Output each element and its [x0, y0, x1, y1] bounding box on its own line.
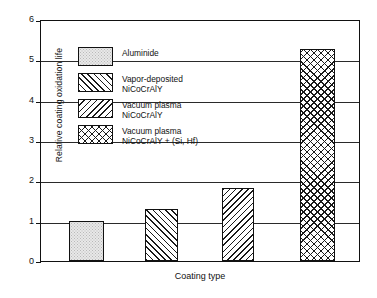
y-axis-title: Relative coating oxidation life	[54, 25, 64, 185]
legend-swatch-hatch-forward-icon	[78, 73, 113, 92]
legend-item-aluminide[interactable]: Aluminide	[78, 46, 253, 68]
legend-swatch-stipple-icon	[78, 47, 113, 66]
bar-vapor-deposited-nicocralY[interactable]	[145, 209, 178, 261]
y-tick-label-5: 5	[29, 55, 34, 64]
chart-legend: Aluminide Vapor-deposited NiCoCrAlY Vacu…	[78, 46, 253, 146]
legend-swatch-hatch-backward-icon	[78, 99, 113, 118]
y-axis-tick-labels: 6 5 4 3 2 1 0	[0, 20, 34, 262]
bar-aluminide[interactable]	[69, 221, 104, 261]
y-tick-1	[36, 223, 41, 224]
bar-vacuum-plasma-nicocralY-si-hf[interactable]	[300, 49, 335, 261]
y-tick-0	[36, 262, 41, 263]
bar-vacuum-plasma-nicocralY[interactable]	[222, 188, 254, 261]
y-tick-label-6: 6	[29, 15, 34, 24]
y-tick-5	[36, 61, 41, 62]
y-tick-label-4: 4	[29, 96, 34, 105]
y-tick-label-1: 1	[29, 217, 34, 226]
y-tick-label-2: 2	[29, 176, 34, 185]
legend-item-vacuum-plasma[interactable]: Vacuum plasma NiCoCrAlY	[78, 98, 253, 120]
legend-label-vapor-deposited: Vapor-deposited NiCoCrAlY	[122, 72, 183, 94]
legend-label-aluminide: Aluminide	[122, 46, 159, 58]
legend-label-vacuum-plasma: Vacuum plasma NiCoCrAlY	[122, 98, 181, 120]
legend-label-vacuum-plasma-si-hf: Vacuum plasma NiCoCrAlY + (Si, Hf)	[122, 124, 198, 146]
y-tick-2	[36, 182, 41, 183]
y-tick-6	[36, 21, 41, 22]
y-tick-3	[36, 142, 41, 143]
plot-area: Relative coating oxidation life Aluminid…	[40, 20, 360, 262]
y-tick-label-3: 3	[29, 136, 34, 145]
y-tick-label-0: 0	[29, 257, 34, 266]
chart-figure: 6 5 4 3 2 1 0 Relative coating oxidation…	[0, 0, 377, 298]
legend-item-vapor-deposited[interactable]: Vapor-deposited NiCoCrAlY	[78, 72, 253, 94]
x-axis-title: Coating type	[40, 271, 360, 281]
y-tick-4	[36, 102, 41, 103]
legend-swatch-crosshatch-icon	[78, 125, 113, 144]
legend-item-vacuum-plasma-si-hf[interactable]: Vacuum plasma NiCoCrAlY + (Si, Hf)	[78, 124, 253, 146]
